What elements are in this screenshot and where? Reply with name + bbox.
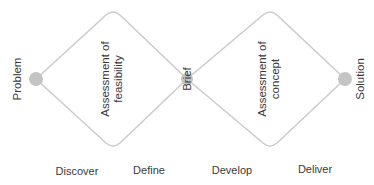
- problem-label: Problem: [11, 58, 23, 101]
- phase-discover: Discover: [56, 165, 99, 177]
- diamond-2-label-line2: concept: [269, 58, 281, 99]
- phase-develop: Develop: [212, 164, 252, 176]
- brief-label: Brief: [181, 66, 193, 90]
- diamond-1-label-line2: feasibility: [112, 55, 124, 103]
- phase-define: Define: [133, 164, 165, 176]
- solution-label: Solution: [354, 58, 366, 100]
- diamond-1-label-line1: Assessment of: [99, 40, 111, 116]
- double-diamond-diagram: Problem Brief Solution Assessment of fea…: [0, 0, 374, 185]
- solution-node: [338, 72, 352, 86]
- problem-node: [29, 72, 43, 86]
- phase-deliver: Deliver: [298, 163, 333, 175]
- diamond-2-label-line1: Assessment of: [256, 40, 268, 116]
